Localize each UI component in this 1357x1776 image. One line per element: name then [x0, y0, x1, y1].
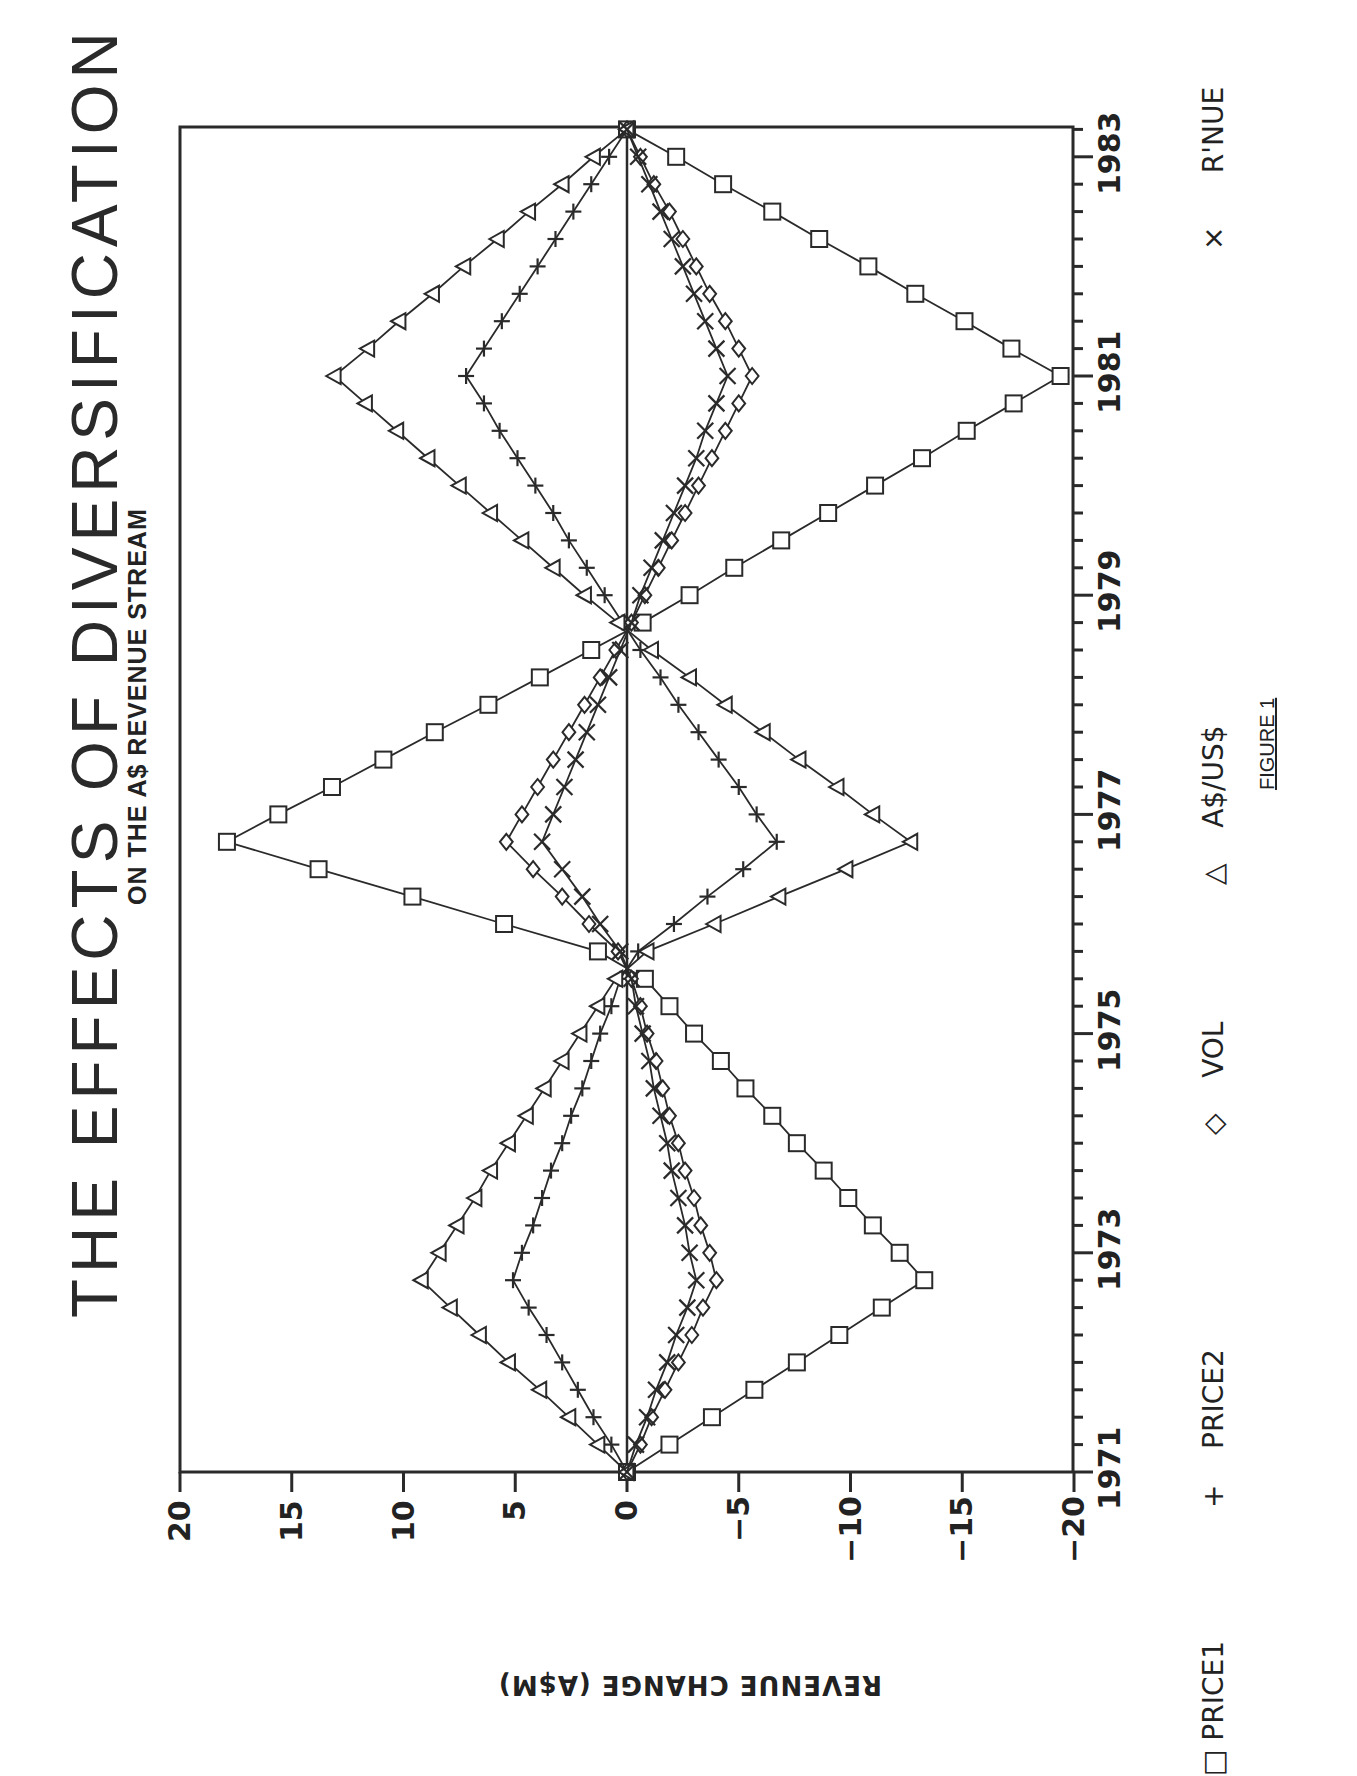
series-r-nue [534, 121, 736, 1480]
chart-plot [0, 0, 1357, 1776]
year-tick-label: 1973 [1092, 1207, 1127, 1291]
series-price1 [219, 121, 1069, 1480]
legend-item-vol: ◇ VOL [1197, 1022, 1230, 1135]
year-tick-label: 1977 [1092, 769, 1127, 853]
value-tick-label: −10 [833, 1496, 868, 1563]
legend-label: A$/US$ [1197, 725, 1230, 827]
plot-frame [180, 127, 1093, 1492]
figure-caption: FIGURE 1 [1256, 698, 1279, 790]
legend-item-price2: + PRICE2 [1197, 1349, 1230, 1508]
series-lines [219, 121, 1069, 1480]
legend-label: PRICE1 [1197, 1641, 1230, 1741]
year-tick-label: 1983 [1092, 111, 1127, 195]
year-tick-label: 1971 [1092, 1427, 1127, 1511]
legend-label: R'NUE [1197, 87, 1230, 173]
year-tick-label: 1975 [1092, 988, 1127, 1072]
legend-label: PRICE2 [1197, 1349, 1230, 1449]
value-tick-label: 20 [162, 1500, 197, 1542]
value-tick-label: 15 [274, 1500, 309, 1542]
chart-title: THE EFFECTS OF DIVERSIFICATION [58, 26, 132, 1318]
series-vol [500, 121, 759, 1480]
square-marker-icon: □ [1197, 1750, 1230, 1776]
year-tick-label: 1979 [1092, 550, 1127, 634]
plus-marker-icon: + [1197, 1485, 1230, 1508]
y-axis-label: REVENUE CHANGE (A$M) [498, 1670, 882, 1700]
diamond-marker-icon: ◇ [1197, 1113, 1230, 1135]
value-tick-label: −20 [1056, 1496, 1091, 1563]
value-tick-label: 10 [386, 1500, 421, 1542]
series-a-us- [326, 121, 917, 1480]
chart-subtitle: ON THE A$ REVENUE STREAM [123, 508, 152, 905]
legend-item-audusd: △ A$/US$ [1197, 725, 1230, 885]
value-tick-label: 5 [497, 1500, 532, 1521]
legend-item-rnue: × R'NUE [1197, 87, 1230, 250]
x-marker-icon: × [1197, 227, 1230, 250]
value-tick-label: 0 [609, 1500, 644, 1521]
legend-item-price1: □ PRICE1 [1197, 1641, 1230, 1776]
value-tick-label: −5 [721, 1496, 756, 1542]
series-price2 [458, 121, 785, 1480]
year-tick-label: 1981 [1092, 331, 1127, 415]
triangle-marker-icon: △ [1197, 863, 1230, 885]
value-tick-label: −15 [944, 1496, 979, 1563]
legend-label: VOL [1197, 1022, 1230, 1078]
